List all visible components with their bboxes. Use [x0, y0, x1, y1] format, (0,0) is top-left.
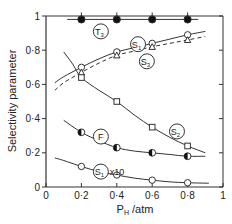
- x-axis-title-unit: /atm: [129, 203, 153, 215]
- x-tick-label: 0·6: [145, 190, 160, 201]
- marker-s2: [114, 99, 120, 105]
- y-tick-label: 0·8: [26, 45, 41, 56]
- x-tick-label: 1: [220, 190, 226, 201]
- marker-s1-x10: [149, 177, 155, 183]
- x-tick-label: 0·4: [110, 190, 125, 201]
- selectivity-chart: 00·20·40·60·8100·20·40·60·81 T3S1S3S2FS1…: [0, 0, 232, 224]
- marker-t3: [113, 16, 120, 23]
- marker-s2: [149, 124, 155, 130]
- y-tick-label: 1: [34, 11, 40, 22]
- curve-s1-x10: [55, 158, 209, 183]
- marker-s2: [185, 143, 191, 149]
- marker-t3: [184, 16, 191, 23]
- curve-s1: [55, 31, 205, 82]
- series-label-suffix: x10: [110, 167, 125, 177]
- marker-t3: [78, 16, 85, 23]
- curve-f: [64, 120, 206, 156]
- x-tick-label: 0·2: [74, 190, 89, 201]
- marker-t3: [149, 16, 156, 23]
- y-tick-label: 0·2: [26, 147, 41, 158]
- series-labels: T3S1S3S2FS1x10: [93, 24, 184, 179]
- marker-s1-x10: [184, 180, 190, 186]
- y-tick-label: 0·6: [26, 79, 41, 90]
- y-tick-label: 0·4: [26, 113, 41, 124]
- x-axis-title: PH /atm: [117, 203, 154, 216]
- marker-s1-x10: [78, 163, 84, 169]
- x-tick-label: 0: [43, 190, 49, 201]
- marker-s2: [79, 75, 85, 81]
- axes: 00·20·40·60·8100·20·40·60·81: [26, 11, 227, 202]
- x-axis-title-main: P: [117, 203, 124, 215]
- x-tick-label: 0·8: [180, 190, 195, 201]
- series-label-f: F: [98, 132, 104, 142]
- y-tick-label: 0: [34, 182, 40, 193]
- y-axis-title: Selectivity parameter: [6, 49, 18, 152]
